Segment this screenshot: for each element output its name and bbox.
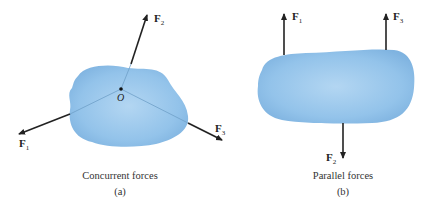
force-name: F <box>215 122 222 134</box>
force-f3-label-b: F3 <box>393 10 403 25</box>
rigid-body-b <box>258 49 415 123</box>
force-subscript: 1 <box>299 17 303 25</box>
force-subscript: 2 <box>333 158 337 166</box>
force-name: F <box>292 10 299 22</box>
rigid-body-a <box>69 66 188 147</box>
force-f3-label-a: F3 <box>215 122 225 137</box>
force-name: F <box>19 137 26 149</box>
caption-a: Concurrent forces <box>70 170 170 181</box>
figure: O F2 F1 F3 F1 F3 F2 Concurrent forces (a… <box>0 0 427 210</box>
caption-b: Parallel forces <box>293 170 393 181</box>
sublabel-a: (a) <box>70 186 170 197</box>
force-name: F <box>154 12 161 24</box>
sublabel-b: (b) <box>293 186 393 197</box>
force-subscript: 3 <box>222 129 226 137</box>
force-f1-label-b: F1 <box>292 10 302 25</box>
force-name: F <box>393 10 400 22</box>
force-f2-label-a: F2 <box>154 12 164 27</box>
force-f1-label-a: F1 <box>19 137 29 152</box>
point-o-label: O <box>117 92 124 103</box>
force-subscript: 2 <box>161 19 165 27</box>
force-subscript: 1 <box>26 144 30 152</box>
force-subscript: 3 <box>400 17 404 25</box>
force-f2-label-b: F2 <box>326 151 336 166</box>
force-name: F <box>326 151 333 163</box>
